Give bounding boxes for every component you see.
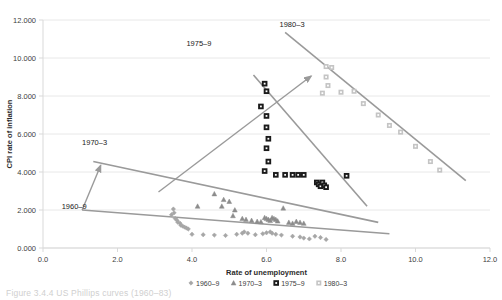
data-point-1-11: [259, 219, 264, 223]
data-point-2-9: [273, 172, 279, 178]
data-point-1-8: [244, 217, 249, 221]
data-point-1-0: [195, 204, 200, 208]
data-point-3-10: [398, 130, 403, 135]
data-point-0-31: [313, 234, 317, 238]
data-point-3-1: [329, 65, 334, 70]
data-point-3-13: [437, 168, 442, 173]
data-point-2-10-inner: [284, 174, 286, 176]
data-point-1-25: [301, 221, 306, 225]
series-1980-3: [320, 64, 442, 173]
trend-lines: [82, 32, 466, 233]
data-point-1-23: [294, 219, 299, 223]
data-point-2-7-inner: [267, 161, 269, 163]
x-tick-label-2.0: 2.0: [112, 255, 122, 264]
x-tick-label-4.0: 4.0: [187, 255, 197, 264]
data-point-3-4-inner: [321, 92, 323, 94]
data-point-0-15: [223, 233, 227, 237]
data-point-2-16-inner: [320, 185, 322, 187]
data-point-1-9: [249, 218, 254, 222]
trend-line-1960-9-trend: [82, 210, 389, 234]
data-point-0-33: [324, 237, 328, 241]
data-point-3-12-inner: [430, 161, 432, 163]
x-tick-label-12.0: 12.0: [483, 255, 498, 264]
data-point-2-2: [258, 104, 264, 110]
annotation-1980-3: 1980–3: [280, 20, 305, 29]
data-point-1-20: [281, 206, 286, 210]
phillips-curve-chart: 0.0002.0004.0006.0008.00010.00012.0000.0…: [0, 0, 502, 300]
gridlines: [43, 20, 490, 248]
data-point-1-24: [298, 220, 303, 224]
data-point-3-0: [324, 64, 329, 69]
data-point-2-13-inner: [303, 174, 305, 176]
data-point-3-5-inner: [340, 91, 342, 93]
data-point-0-29: [302, 236, 306, 240]
annotation-1975-9: 1975–9: [186, 39, 211, 48]
data-point-2-11: [290, 172, 296, 178]
data-point-3-11: [413, 144, 418, 149]
data-point-3-11-inner: [415, 145, 417, 147]
data-point-3-9-inner: [389, 125, 391, 127]
data-point-3-7: [361, 101, 366, 106]
figure-caption: Figure 3.4.4 US Phillips curves (1960–83…: [6, 288, 172, 298]
data-point-2-0-inner: [264, 83, 266, 85]
data-point-0-27: [290, 234, 294, 238]
data-point-3-13-inner: [439, 169, 441, 171]
legend-label-2: 1975–9: [281, 280, 304, 287]
data-point-0-32: [318, 235, 322, 239]
data-point-3-3: [325, 83, 330, 88]
y-tick-label-12.000: 12.000: [13, 16, 36, 25]
data-point-2-6: [264, 145, 270, 151]
data-point-3-5: [339, 90, 344, 95]
data-point-2-11-inner: [292, 174, 294, 176]
data-point-2-3: [264, 113, 270, 119]
data-point-3-7-inner: [362, 103, 364, 105]
legend-marker-2-inner: [275, 282, 277, 284]
data-point-2-0: [262, 81, 268, 87]
figure-container: 0.0002.0004.0006.0008.00010.00012.0000.0…: [0, 0, 502, 300]
data-point-3-1-inner: [331, 67, 333, 69]
data-point-2-10: [282, 172, 288, 178]
data-point-1-4: [227, 199, 232, 203]
legend-label-1: 1970–3: [239, 280, 262, 287]
legend-label-3: 1980–3: [324, 280, 347, 287]
data-point-0-16: [235, 232, 239, 236]
chart-legend: 1960–91970–31975–91980–3: [189, 280, 347, 287]
x-tick-label-8.0: 8.0: [336, 255, 346, 264]
data-point-3-12: [428, 159, 433, 164]
legend-label-0: 1960–9: [196, 280, 219, 287]
data-point-1-2: [219, 204, 224, 208]
data-point-1-7: [240, 216, 245, 220]
data-point-3-10-inner: [400, 131, 402, 133]
data-point-3-9: [387, 123, 392, 128]
data-point-3-6-inner: [353, 90, 355, 92]
legend-marker-2: [273, 280, 279, 286]
data-point-0-21: [261, 232, 265, 236]
data-point-0-20: [253, 233, 257, 237]
data-point-3-3-inner: [327, 85, 329, 87]
annotation-1960-9: 1960–9: [62, 202, 87, 211]
data-point-2-9-inner: [275, 174, 277, 176]
data-point-2-19: [323, 184, 329, 190]
data-point-2-8-inner: [264, 170, 266, 172]
data-point-2-6-inner: [266, 147, 268, 149]
data-point-2-5-inner: [267, 138, 269, 140]
data-point-3-2: [324, 75, 329, 80]
y-axis-ticks: 0.0002.0004.0006.0008.00010.00012.000: [13, 16, 43, 253]
data-point-2-12-inner: [297, 174, 299, 176]
data-point-1-5: [231, 213, 236, 217]
data-point-2-8: [262, 168, 268, 174]
data-point-2-2-inner: [260, 106, 262, 108]
data-point-3-8: [376, 113, 381, 118]
data-point-0-25: [274, 232, 278, 236]
data-point-2-7: [266, 159, 272, 165]
data-point-0-1: [171, 207, 175, 211]
legend-marker-1: [231, 281, 236, 285]
data-point-2-20: [344, 173, 350, 179]
y-tick-label-6.000: 6.000: [17, 130, 36, 139]
y-tick-label-0.000: 0.000: [17, 244, 36, 253]
data-point-3-2-inner: [325, 76, 327, 78]
data-point-2-4: [264, 125, 270, 131]
data-point-3-6: [352, 89, 357, 94]
data-point-3-4: [320, 91, 325, 96]
legend-marker-0: [189, 281, 193, 285]
